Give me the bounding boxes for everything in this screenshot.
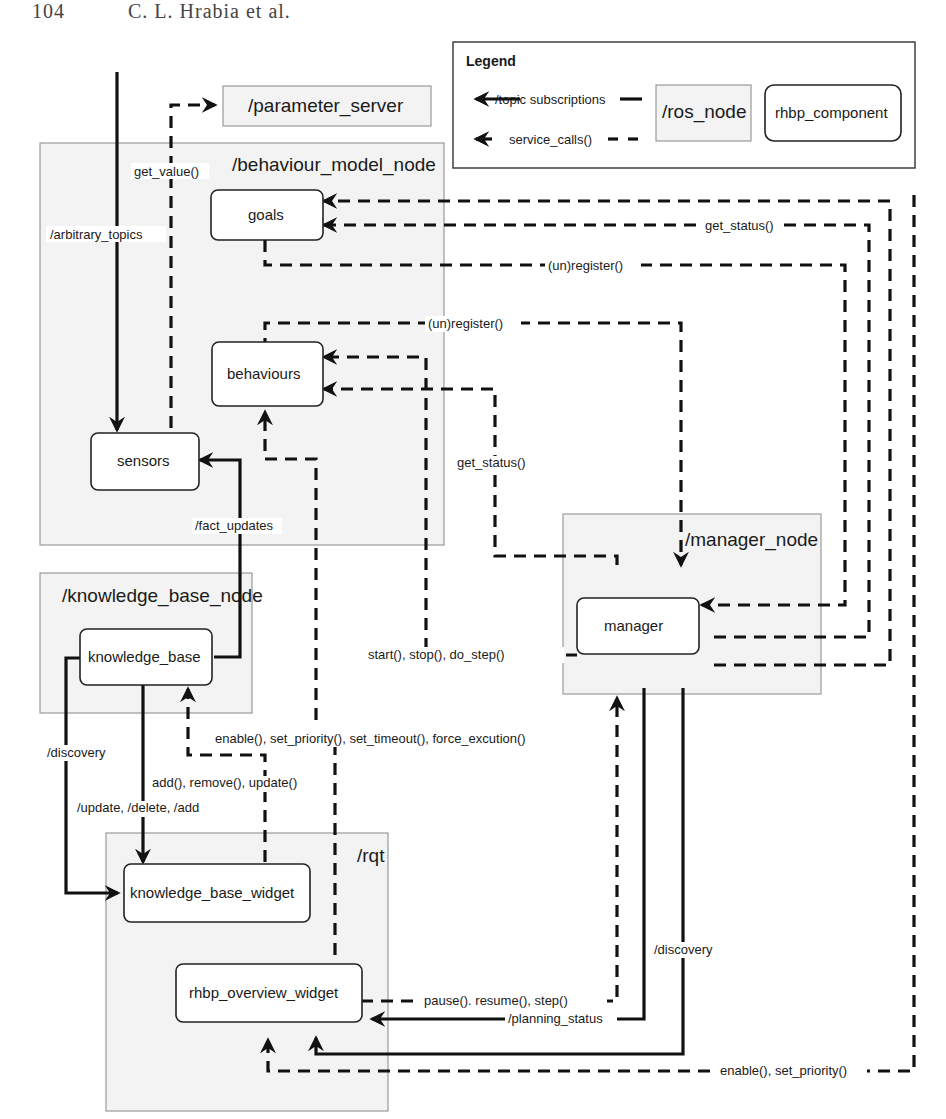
component-goals[interactable]: goals bbox=[211, 190, 323, 240]
node-label-behaviour-model: /behaviour_model_node bbox=[232, 154, 436, 176]
svg-text:knowledge_base_widget: knowledge_base_widget bbox=[130, 884, 295, 901]
edge-behaviour-services bbox=[265, 412, 316, 720]
svg-text:start(), stop(), do_step(): start(), stop(), do_step() bbox=[368, 647, 505, 662]
architecture-diagram: /parameter_server /behaviour_model_node … bbox=[0, 0, 946, 1119]
legend-service-label: service_calls() bbox=[509, 132, 592, 147]
svg-text:behaviours: behaviours bbox=[227, 365, 300, 382]
svg-text:get_status(): get_status() bbox=[457, 455, 526, 470]
svg-text:rhbp_overview_widget: rhbp_overview_widget bbox=[189, 984, 339, 1001]
component-manager[interactable]: manager bbox=[577, 598, 699, 654]
component-sensors[interactable]: sensors bbox=[91, 433, 199, 490]
edge-start-stop: start(), stop(), do_step() bbox=[366, 647, 577, 663]
svg-text:enable(), set_priority(), set_: enable(), set_priority(), set_timeout(),… bbox=[215, 731, 526, 746]
component-knowledge-base[interactable]: knowledge_base bbox=[80, 629, 212, 685]
svg-text:/arbitrary_topics: /arbitrary_topics bbox=[50, 227, 143, 242]
svg-text:(un)register(): (un)register() bbox=[428, 316, 503, 331]
node-label-manager: /manager_node bbox=[685, 529, 818, 551]
legend: Legend /topic subscriptions service_call… bbox=[453, 42, 915, 168]
component-knowledge-base-widget[interactable]: knowledge_base_widget bbox=[124, 864, 310, 922]
svg-text:get_value(): get_value() bbox=[134, 164, 199, 179]
svg-text:(un)register(): (un)register() bbox=[548, 258, 623, 273]
svg-text:add(), remove(), update(): add(), remove(), update() bbox=[152, 775, 297, 790]
svg-text:/planning_status: /planning_status bbox=[508, 1011, 603, 1026]
svg-text:goals: goals bbox=[248, 206, 284, 223]
svg-text:manager: manager bbox=[604, 617, 663, 634]
svg-text:sensors: sensors bbox=[117, 452, 170, 469]
svg-text:/discovery: /discovery bbox=[47, 745, 106, 760]
node-label-parameter-server: /parameter_server bbox=[248, 95, 404, 117]
svg-text:get_status(): get_status() bbox=[705, 218, 774, 233]
node-label-knowledge-base: /knowledge_base_node bbox=[62, 585, 263, 607]
svg-text:/fact_updates: /fact_updates bbox=[195, 518, 274, 533]
svg-text:knowledge_base: knowledge_base bbox=[88, 648, 201, 665]
svg-text:/discovery: /discovery bbox=[654, 942, 713, 957]
node-label-rqt: /rqt bbox=[357, 845, 385, 866]
legend-ros-node-label: /ros_node bbox=[662, 101, 747, 123]
svg-text:enable(), set_priority(): enable(), set_priority() bbox=[720, 1063, 847, 1078]
svg-text:pause(). resume(), step(): pause(). resume(), step() bbox=[424, 993, 568, 1008]
legend-topic-label: /topic subscriptions bbox=[495, 92, 606, 107]
component-rhbp-overview-widget[interactable]: rhbp_overview_widget bbox=[176, 964, 362, 1022]
legend-component-label: rhbp_component bbox=[775, 104, 888, 121]
svg-text:/update, /delete, /add: /update, /delete, /add bbox=[77, 800, 199, 815]
legend-title: Legend bbox=[466, 53, 516, 69]
node-parameter-server: /parameter_server bbox=[223, 86, 431, 126]
component-behaviours[interactable]: behaviours bbox=[212, 342, 323, 406]
